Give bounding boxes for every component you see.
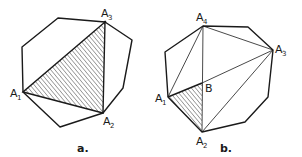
vertex-label-b-a3: A3 <box>275 43 286 58</box>
figure-b: A1 A2 A3 A4 B b. <box>155 11 286 155</box>
vertex-label-b-a1: A1 <box>155 92 166 107</box>
caption-a: a. <box>77 142 89 155</box>
svg-text:2: 2 <box>203 142 207 150</box>
svg-text:1: 1 <box>162 99 166 107</box>
caption-b: b. <box>220 142 232 155</box>
svg-text:4: 4 <box>203 18 208 26</box>
svg-text:2: 2 <box>110 122 114 130</box>
polygon-triangulation-diagram: A1 A2 A3 a. A1 A2 A3 A4 <box>0 0 302 157</box>
svg-text:1: 1 <box>17 94 21 102</box>
vertex-label-b-a2: A2 <box>196 135 207 150</box>
figure-a: A1 A2 A3 a. <box>10 7 132 155</box>
diagonals-b <box>168 26 273 132</box>
svg-text:3: 3 <box>108 14 112 22</box>
vertex-label-b: B <box>205 82 213 95</box>
polygon-b <box>165 26 273 132</box>
svg-text:3: 3 <box>282 50 286 58</box>
vertex-label-b-a4: A4 <box>196 11 208 26</box>
vertex-label-a3: A3 <box>101 7 112 22</box>
vertex-label-a2: A2 <box>103 115 114 130</box>
vertex-label-a1: A1 <box>10 87 21 102</box>
